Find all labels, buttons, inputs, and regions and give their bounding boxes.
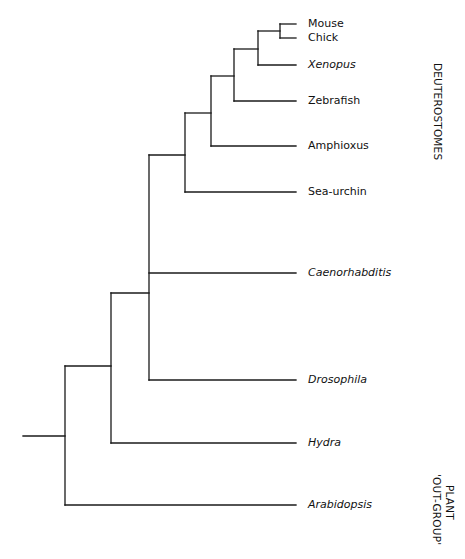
leaf-label-xenopus: Xenopus bbox=[308, 59, 356, 71]
leaf-label-caenorhabditis: Caenorhabditis bbox=[308, 267, 391, 279]
phylogenetic-tree bbox=[0, 0, 465, 559]
leaf-label-hydra: Hydra bbox=[308, 437, 341, 449]
group-label-deuterostomes: DEUTEROSTOMES bbox=[432, 63, 444, 160]
leaf-label-mouse: Mouse bbox=[308, 18, 344, 30]
leaf-label-arabidopsis: Arabidopsis bbox=[308, 499, 372, 511]
group-label-plant-line2: 'OUT-GROUP' bbox=[431, 474, 443, 545]
leaf-label-amphioxus: Amphioxus bbox=[308, 140, 369, 152]
tree-branches bbox=[23, 24, 296, 505]
leaf-label-drosophila: Drosophila bbox=[308, 374, 367, 386]
leaf-label-zebrafish: Zebrafish bbox=[308, 95, 360, 107]
group-label-plant-line1: PLANT bbox=[444, 485, 456, 520]
leaf-label-chick: Chick bbox=[308, 32, 338, 44]
leaf-label-sea-urchin: Sea-urchin bbox=[308, 186, 367, 198]
